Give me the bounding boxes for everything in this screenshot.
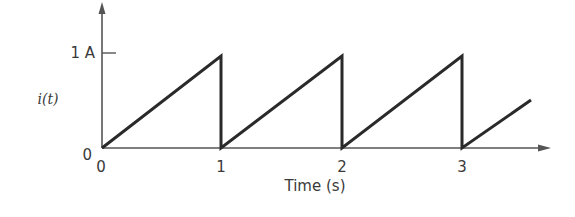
- sawtooth-line: [102, 56, 531, 148]
- y-axis-label: i(t): [37, 91, 58, 107]
- y-tick-label-1a: 1 A: [70, 44, 95, 62]
- x-tick-label-2: 2: [337, 158, 347, 176]
- x-axis-arrow-icon: [538, 145, 551, 152]
- sawtooth-chart: 1 A i(t) 0 0 1 2 3 Time (s): [0, 0, 575, 217]
- x-axis-label: Time (s): [284, 177, 346, 195]
- x-tick-label-0: 0: [96, 158, 106, 176]
- x-tick-label-3: 3: [457, 158, 467, 176]
- x-tick-label-1: 1: [216, 158, 226, 176]
- y-axis-arrow-icon: [99, 2, 106, 14]
- y-tick-label-0: 0: [82, 146, 92, 164]
